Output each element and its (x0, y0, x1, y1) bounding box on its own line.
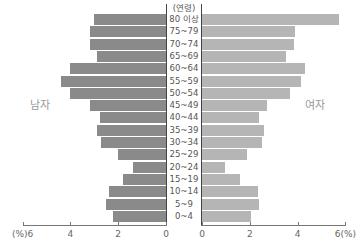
age-group-label: 40~44 (166, 112, 202, 123)
x-tick (70, 222, 71, 225)
male-bar (106, 199, 166, 210)
male-bar (70, 63, 166, 74)
age-group-label: 55~59 (166, 76, 202, 87)
male-bar (90, 100, 166, 111)
female-bar (202, 26, 295, 37)
female-bar (202, 39, 294, 50)
male-bar (118, 149, 166, 160)
male-bar (113, 211, 166, 222)
male-bar (97, 51, 166, 62)
male-bar (133, 162, 166, 173)
age-group-label: 70~74 (166, 39, 202, 50)
age-group-label: 45~49 (166, 100, 202, 111)
male-bar (70, 88, 166, 99)
age-group-label: 25~29 (166, 149, 202, 160)
female-bar (202, 174, 240, 185)
male-bar (61, 76, 166, 87)
female-bar (202, 88, 290, 99)
female-bar (202, 137, 262, 148)
female-bar (202, 199, 259, 210)
female-bar (202, 112, 259, 123)
male-bar (101, 137, 166, 148)
male-bar (94, 14, 166, 25)
female-bar (202, 14, 339, 25)
female-bar (202, 51, 286, 62)
age-group-label: 50~54 (166, 88, 202, 99)
age-group-label: 30~34 (166, 137, 202, 148)
x-tick-label: 2 (247, 229, 253, 239)
female-bar (202, 100, 267, 111)
x-tick-label: 6(%) (335, 229, 356, 239)
age-group-label: 10~14 (166, 186, 202, 197)
age-group-label: 5~9 (166, 199, 202, 210)
male-x-axis (23, 225, 167, 226)
age-group-label: 60~64 (166, 63, 202, 74)
male-bar (100, 112, 166, 123)
x-tick (298, 222, 299, 225)
population-pyramid-chart: (연령) 80 이상75~7970~7465~6960~6455~5950~54… (0, 0, 364, 249)
age-group-label: 75~79 (166, 26, 202, 37)
female-x-axis (201, 225, 346, 226)
x-tick (250, 222, 251, 225)
x-tick-label: 2 (115, 229, 121, 239)
male-bar (109, 186, 166, 197)
x-tick-label: 0 (163, 229, 169, 239)
female-bar (202, 63, 305, 74)
age-group-label: 0~4 (166, 211, 202, 222)
x-tick-label: 4 (295, 229, 301, 239)
female-bar (202, 76, 301, 87)
male-axis-line (166, 4, 167, 225)
x-tick-label: (%)6 (12, 229, 33, 239)
female-label: 여자 (305, 96, 325, 112)
age-axis-header: (연령) (166, 1, 202, 13)
age-group-label: 20~24 (166, 162, 202, 173)
x-tick-label: 0 (199, 229, 205, 239)
male-bar (90, 39, 166, 50)
female-bar (202, 211, 251, 222)
female-bar (202, 186, 258, 197)
x-tick (166, 222, 167, 225)
female-bar (202, 162, 225, 173)
age-group-label: 35~39 (166, 125, 202, 136)
x-tick (345, 222, 346, 225)
female-bar (202, 149, 247, 160)
age-group-label: 15~19 (166, 174, 202, 185)
x-tick-label: 4 (68, 229, 74, 239)
x-tick (202, 222, 203, 225)
age-group-label: 80 이상 (166, 14, 202, 25)
x-tick (118, 222, 119, 225)
male-bar (90, 26, 166, 37)
female-axis-line (201, 4, 202, 225)
female-bar (202, 125, 264, 136)
age-group-label: 65~69 (166, 51, 202, 62)
male-label: 남자 (30, 96, 50, 112)
x-tick (23, 222, 24, 225)
male-bar (123, 174, 166, 185)
male-bar (97, 125, 166, 136)
